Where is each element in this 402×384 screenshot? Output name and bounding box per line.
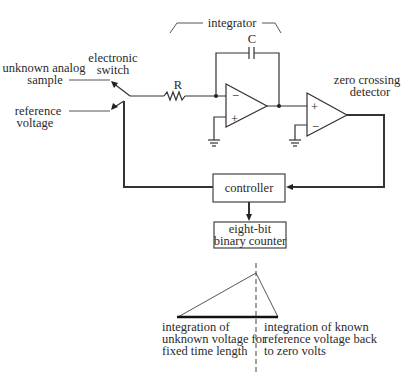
capacitor-label: C bbox=[248, 32, 256, 46]
reference-label-2: voltage bbox=[17, 116, 54, 130]
integrator-bracket: integrator bbox=[170, 16, 281, 33]
integrator-plus: + bbox=[231, 112, 238, 126]
controller-block: controller bbox=[213, 174, 285, 202]
adc-block-diagram: integrator C unknown analog sample refer… bbox=[0, 0, 402, 384]
ground-icon bbox=[289, 140, 301, 146]
integrator-opamp: − + bbox=[208, 84, 267, 146]
switch-label-2: switch bbox=[97, 63, 130, 77]
counter-label-2: binary counter bbox=[214, 234, 287, 248]
ground-icon bbox=[208, 140, 220, 146]
reference-voltage-input: reference voltage bbox=[15, 104, 110, 130]
controller-label: controller bbox=[225, 181, 274, 195]
binary-counter-block: eight-bit binary counter bbox=[214, 222, 287, 248]
integration-waveform: integration of unknown voltage for fixed… bbox=[162, 263, 378, 372]
left-caption-3: fixed time length bbox=[162, 344, 248, 358]
resistor-label: R bbox=[174, 78, 183, 92]
integrator-minus: − bbox=[232, 89, 239, 103]
integrator-label: integrator bbox=[208, 16, 257, 30]
detector-minus: − bbox=[312, 120, 319, 134]
detector-plus: + bbox=[311, 100, 318, 114]
resistor-r: R bbox=[164, 78, 185, 100]
unknown-label-2: sample bbox=[27, 73, 63, 87]
right-caption-3: to zero volts bbox=[264, 344, 326, 358]
zero-crossing-label-2: detector bbox=[350, 85, 391, 99]
